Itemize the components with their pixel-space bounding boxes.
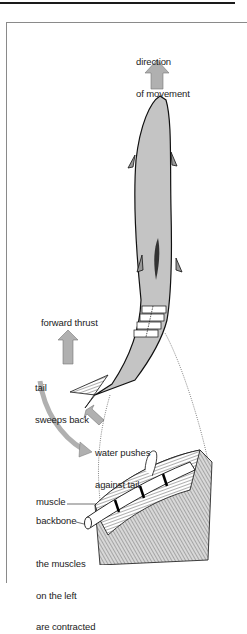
backbone-label: backbone — [36, 516, 76, 527]
muscles-label-line3: are contracted — [36, 622, 95, 633]
forward-thrust-label: forward thrust — [41, 318, 98, 329]
direction-label-line2: of movement — [136, 89, 190, 100]
water-label-line2: against tail — [95, 480, 150, 491]
direction-label-line1: direction — [136, 57, 190, 68]
water-label-line1: water pushes — [95, 448, 150, 459]
forward-thrust-arrow-icon — [58, 330, 78, 364]
tail-label-line1: tail — [35, 383, 89, 394]
direction-label: direction of movement — [136, 36, 190, 110]
muscles-contracted-label: the muscles on the left are contracted — [36, 538, 95, 634]
muscles-label-line1: the muscles — [36, 559, 95, 570]
water-pushes-label: water pushes against tail — [95, 427, 150, 501]
tail-sweeps-label: tail sweeps back — [35, 362, 89, 436]
muscle-label: muscle — [36, 497, 66, 508]
muscles-label-line2: on the left — [36, 591, 95, 602]
tail-label-line2: sweeps back — [35, 415, 89, 426]
